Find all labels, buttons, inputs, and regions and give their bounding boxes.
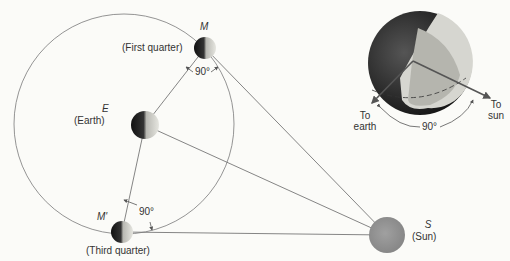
moon-first-label: (First quarter) — [122, 42, 183, 53]
earth-symbol: E — [102, 103, 109, 114]
to-sun-line2: sun — [483, 110, 509, 121]
geometry-lines — [122, 48, 387, 235]
earth — [131, 111, 159, 139]
to-earth-line1: To — [345, 110, 385, 121]
inset-sphere — [368, 11, 490, 127]
moon-third-quarter — [111, 221, 133, 243]
to-sun-line1: To — [483, 99, 509, 110]
sun — [369, 217, 405, 253]
moon-first-symbol: M — [200, 21, 208, 32]
to-earth-line2: earth — [345, 121, 385, 132]
moon-third-label: (Third quarter) — [86, 245, 150, 256]
moon-first-quarter — [194, 37, 216, 59]
sun-symbol: S — [418, 219, 438, 230]
angle-first-quarter: 90° — [195, 66, 210, 77]
angle-inset: 90° — [422, 121, 437, 132]
angle-third-quarter: 90° — [139, 206, 154, 217]
moon-third-symbol: M' — [97, 211, 107, 222]
earth-label: (Earth) — [74, 115, 105, 126]
sun-label: (Sun) — [412, 231, 436, 242]
